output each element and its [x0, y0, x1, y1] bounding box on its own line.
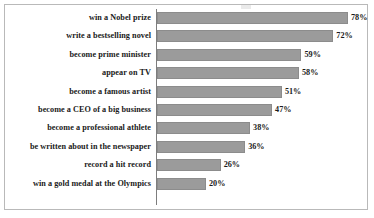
bar — [157, 12, 348, 24]
bar-track: 78% — [157, 12, 365, 24]
bar-track: 20% — [157, 178, 365, 190]
bar-category-label: be written about in the newspaper — [5, 142, 151, 152]
chart-frame: win a Nobel prize78%write a bestselling … — [4, 4, 368, 210]
bar-track: 51% — [157, 86, 365, 98]
bar-value-label: 36% — [245, 142, 264, 152]
bar-value-label: 59% — [301, 50, 320, 60]
bar-category-label: become a professional athlete — [5, 123, 151, 133]
bar — [157, 86, 282, 98]
bar-category-label: win a gold medal at the Olympics — [5, 179, 151, 189]
bar-track: 26% — [157, 159, 365, 171]
bar-category-label: become prime minister — [5, 50, 151, 60]
chart-plot-area: win a Nobel prize78%write a bestselling … — [5, 5, 367, 209]
bar — [157, 67, 299, 79]
bar-track: 38% — [157, 122, 365, 134]
bar-category-label: record a hit record — [5, 160, 151, 170]
bar-track: 47% — [157, 104, 365, 116]
bar — [157, 122, 250, 134]
bar — [157, 49, 301, 61]
bar-value-label: 20% — [206, 179, 225, 189]
bar-row: be written about in the newspaper36% — [5, 138, 367, 156]
bar-value-label: 58% — [299, 68, 318, 78]
bar-row: appear on TV58% — [5, 64, 367, 82]
bar — [157, 104, 272, 116]
bar — [157, 159, 221, 171]
bar-value-label: 72% — [333, 31, 352, 41]
bar-value-label: 26% — [221, 160, 240, 170]
bar-value-label: 78% — [348, 13, 367, 23]
bar-value-label: 47% — [272, 105, 291, 115]
bar-row: win a Nobel prize78% — [5, 9, 367, 27]
bar-row: become a professional athlete38% — [5, 119, 367, 137]
bar-track: 72% — [157, 30, 365, 42]
bar-value-label: 38% — [250, 123, 269, 133]
bar-category-label: write a bestselling novel — [5, 31, 151, 41]
bar — [157, 141, 245, 153]
bar-row: become a famous artist51% — [5, 83, 367, 101]
bar-row: write a bestselling novel72% — [5, 27, 367, 45]
bar-category-label: win a Nobel prize — [5, 13, 151, 23]
bar-row: win a gold medal at the Olympics20% — [5, 175, 367, 193]
bar — [157, 30, 333, 42]
bar-category-label: become a CEO of a big business — [5, 105, 151, 115]
bar-row: become a CEO of a big business47% — [5, 101, 367, 119]
bar-row: become prime minister59% — [5, 46, 367, 64]
bar-value-label: 51% — [282, 87, 301, 97]
bar-category-label: become a famous artist — [5, 87, 151, 97]
bar-track: 36% — [157, 141, 365, 153]
bar — [157, 178, 206, 190]
bar-track: 59% — [157, 49, 365, 61]
bar-row: record a hit record26% — [5, 156, 367, 174]
bar-category-label: appear on TV — [5, 68, 151, 78]
bar-track: 58% — [157, 67, 365, 79]
